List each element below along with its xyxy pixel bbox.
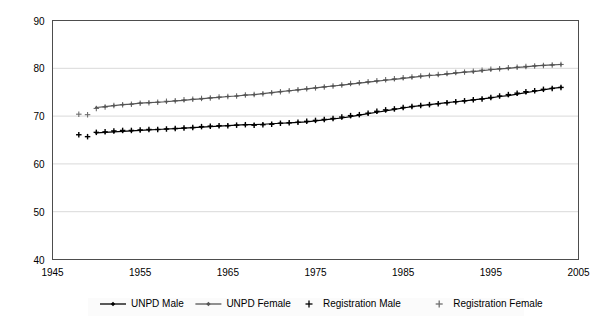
diamond-marker — [279, 122, 282, 125]
diamond-marker — [147, 101, 150, 104]
x-tick-label: 1945 — [41, 267, 64, 278]
legend-label: Registration Female — [453, 298, 543, 309]
diamond-marker — [174, 127, 177, 130]
diamond-marker — [437, 102, 440, 105]
diamond-marker — [226, 95, 229, 98]
diamond-marker — [156, 101, 159, 104]
diamond-marker — [454, 71, 457, 74]
diamond-marker — [419, 104, 422, 107]
diamond-marker — [226, 124, 229, 127]
diamond-marker — [533, 64, 536, 67]
diamond-marker — [235, 94, 238, 97]
diamond-marker — [174, 99, 177, 102]
diamond-marker — [253, 93, 256, 96]
y-tick-label: 80 — [33, 63, 45, 74]
diamond-marker — [331, 84, 334, 87]
diamond-marker — [314, 86, 317, 89]
diamond-marker — [209, 96, 212, 99]
diamond-marker — [454, 100, 457, 103]
diamond-marker — [139, 102, 142, 105]
x-tick-label: 1995 — [480, 267, 503, 278]
diamond-marker — [270, 91, 273, 94]
diamond-marker — [296, 88, 299, 91]
chart-legend: UNPD MaleUNPD FemaleRegistration MaleReg… — [88, 298, 543, 316]
diamond-marker — [480, 69, 483, 72]
diamond-marker — [130, 103, 133, 106]
y-tick-label: 50 — [33, 207, 45, 218]
diamond-marker — [367, 81, 370, 84]
diamond-marker — [191, 98, 194, 101]
diamond-marker — [498, 67, 501, 70]
x-tick-label: 1955 — [129, 267, 152, 278]
diamond-marker — [217, 96, 220, 99]
legend-label: UNPD Female — [226, 298, 291, 309]
diamond-marker — [472, 70, 475, 73]
diamond-marker — [244, 93, 247, 96]
diamond-marker — [182, 126, 185, 129]
diamond-marker — [235, 124, 238, 127]
diamond-marker — [288, 121, 291, 124]
diamond-marker — [191, 126, 194, 129]
diamond-marker — [200, 97, 203, 100]
diamond-marker — [551, 87, 554, 90]
diamond-marker — [419, 75, 422, 78]
x-tick-label: 1985 — [392, 267, 415, 278]
diamond-marker — [349, 82, 352, 85]
plot-area-border — [53, 21, 579, 260]
line-chart: 405060708090 194519551965197519851995200… — [0, 0, 612, 332]
diamond-marker — [463, 71, 466, 74]
y-tick-label: 60 — [33, 159, 45, 170]
diamond-marker — [112, 104, 115, 107]
diamond-marker — [340, 83, 343, 86]
series-unpd-male — [95, 86, 563, 135]
diamond-marker — [156, 128, 159, 131]
diamond-marker — [323, 85, 326, 88]
diamond-marker — [445, 72, 448, 75]
diamond-marker — [375, 80, 378, 83]
x-axis-tick-labels: 1945195519651975198519952005 — [41, 267, 590, 278]
legend-label: UNPD Male — [131, 298, 184, 309]
diamond-marker — [428, 74, 431, 77]
diamond-marker — [305, 87, 308, 90]
x-tick-label: 1975 — [304, 267, 327, 278]
series-line — [96, 87, 561, 132]
diamond-marker — [261, 92, 264, 95]
x-tick-label: 1965 — [217, 267, 240, 278]
series-layer — [76, 62, 564, 140]
diamond-marker — [121, 103, 124, 106]
diamond-marker — [182, 99, 185, 102]
diamond-marker — [410, 76, 413, 79]
diamond-marker — [551, 63, 554, 66]
diamond-marker — [296, 121, 299, 124]
series-unpd-female — [95, 63, 563, 109]
chart-svg: 405060708090 194519551965197519851995200… — [0, 0, 612, 332]
diamond-marker — [463, 99, 466, 102]
diamond-marker — [104, 105, 107, 108]
diamond-marker — [384, 79, 387, 82]
diamond-marker — [165, 127, 168, 130]
y-tick-label: 70 — [33, 111, 45, 122]
diamond-marker — [358, 82, 361, 85]
diamond-marker — [472, 98, 475, 101]
diamond-marker — [480, 97, 483, 100]
diamond-marker — [542, 64, 545, 67]
diamond-marker — [410, 105, 413, 108]
diamond-marker — [437, 73, 440, 76]
diamond-marker — [165, 100, 168, 103]
diamond-marker — [393, 78, 396, 81]
diamond-marker — [279, 90, 282, 93]
diamond-marker — [288, 89, 291, 92]
diamond-marker — [402, 77, 405, 80]
diamond-marker — [559, 86, 562, 89]
diamond-marker — [244, 123, 247, 126]
legend-label: Registration Male — [323, 298, 401, 309]
diamond-marker — [507, 67, 510, 70]
y-tick-label: 90 — [33, 16, 45, 27]
diamond-marker — [445, 101, 448, 104]
diamond-marker — [428, 103, 431, 106]
y-tick-label: 40 — [33, 255, 45, 266]
y-axis-tick-labels: 405060708090 — [33, 16, 45, 266]
x-tick-label: 2005 — [567, 267, 590, 278]
diamond-marker — [559, 63, 562, 66]
